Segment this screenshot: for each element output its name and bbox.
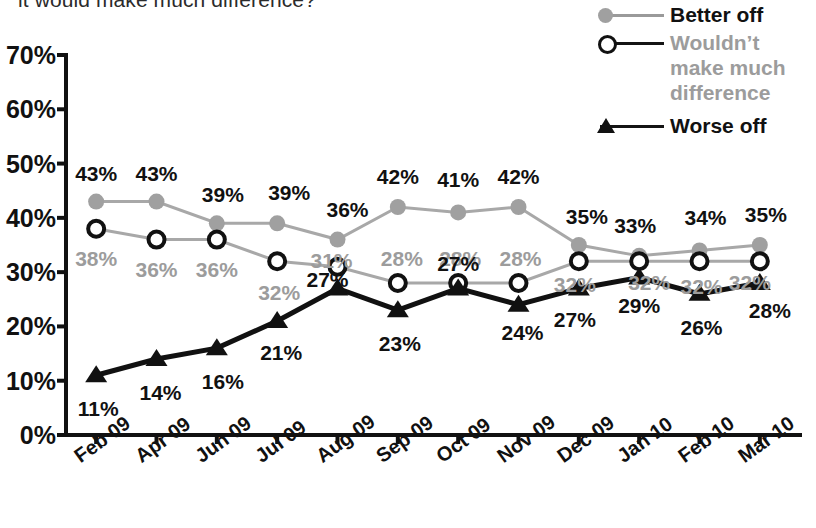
data-point-label: 41%: [437, 168, 479, 192]
data-point-marker: [269, 253, 285, 269]
data-point-label: 42%: [497, 165, 539, 189]
data-point-label: 38%: [75, 247, 117, 271]
chart-page: it would make much difference? Better of…: [0, 0, 816, 528]
data-point-marker: [390, 275, 406, 291]
data-point-label: 32%: [680, 275, 722, 299]
data-point-label: 39%: [268, 181, 310, 205]
data-point-label: 35%: [745, 203, 787, 227]
data-point-marker: [149, 232, 165, 248]
y-axis-tick-label: 60%: [0, 95, 56, 124]
y-axis-tick-label: 20%: [0, 312, 56, 341]
data-point-marker: [209, 232, 225, 248]
series-line: [96, 202, 760, 256]
data-point-label: 28%: [749, 299, 791, 323]
data-point-label: 24%: [501, 321, 543, 345]
data-point-marker: [209, 215, 225, 231]
y-axis-tick-label: 0%: [0, 421, 56, 450]
y-axis-tick-label: 40%: [0, 203, 56, 232]
y-axis-tick-label: 30%: [0, 258, 56, 287]
data-point-label: 26%: [680, 316, 722, 340]
data-point-label: 36%: [196, 258, 238, 282]
data-point-label: 33%: [614, 214, 656, 238]
data-point-label: 21%: [260, 341, 302, 365]
data-point-label: 14%: [139, 381, 181, 405]
data-point-label: 16%: [202, 370, 244, 394]
data-point-label: 32%: [729, 271, 771, 295]
data-point-label: 35%: [566, 205, 608, 229]
data-point-marker: [269, 215, 285, 231]
data-point-marker: [631, 253, 647, 269]
data-point-label: 43%: [135, 162, 177, 186]
data-point-label: 36%: [135, 258, 177, 282]
data-point-label: 28%: [381, 247, 423, 271]
data-point-label: 42%: [377, 165, 419, 189]
y-axis-tick-label: 10%: [0, 366, 56, 395]
data-point-label: 29%: [618, 294, 660, 318]
data-point-label: 23%: [379, 332, 421, 356]
y-axis-tick-label: 70%: [0, 41, 56, 70]
data-point-marker: [571, 253, 587, 269]
data-point-marker: [450, 204, 466, 220]
data-point-marker: [149, 194, 165, 210]
data-point-marker: [88, 221, 104, 237]
data-point-label: 11%: [78, 397, 119, 421]
data-point-marker: [390, 199, 406, 215]
data-point-label: 32%: [258, 281, 300, 305]
data-point-marker: [511, 275, 527, 291]
data-point-label: 34%: [684, 206, 726, 230]
data-point-marker: [88, 194, 104, 210]
data-point-label: 27%: [306, 268, 348, 292]
data-point-label: 32%: [554, 273, 596, 297]
data-point-marker: [511, 199, 527, 215]
data-point-label: 27%: [554, 308, 596, 332]
data-point-marker: [330, 232, 346, 248]
y-axis-tick-label: 50%: [0, 149, 56, 178]
data-point-marker: [571, 237, 587, 253]
data-point-marker: [692, 253, 708, 269]
data-point-label: 28%: [499, 247, 541, 271]
data-point-label: 27%: [437, 252, 479, 276]
data-point-label: 43%: [75, 162, 117, 186]
data-point-marker: [752, 237, 768, 253]
data-point-label: 39%: [202, 183, 244, 207]
data-point-label: 36%: [326, 198, 368, 222]
data-point-marker: [752, 253, 768, 269]
data-point-label: 32%: [628, 271, 670, 295]
